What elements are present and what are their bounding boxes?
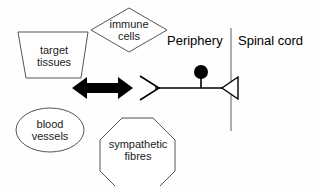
label-spinal-cord: Spinal cord	[238, 33, 303, 48]
terminal-triangle-icon[interactable]	[222, 77, 238, 99]
soma-node-icon[interactable]	[194, 65, 208, 79]
shape-blood-vessels[interactable]	[16, 108, 84, 152]
bidirectional-arrow-icon[interactable]	[72, 77, 133, 99]
shape-sympathetic-fibres[interactable]	[100, 118, 175, 186]
shape-target-tissues[interactable]	[18, 32, 88, 78]
diagram-graphics	[0, 0, 317, 186]
label-periphery: Periphery	[167, 33, 223, 48]
diagram-canvas: target tissues immune cells blood vessel…	[0, 0, 317, 186]
shape-immune-cells[interactable]	[91, 8, 167, 52]
